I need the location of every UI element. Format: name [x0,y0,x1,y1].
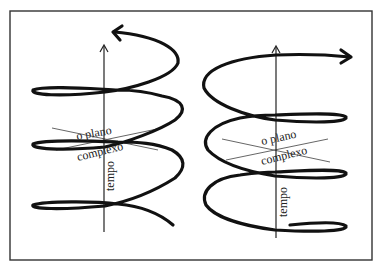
helix-diagram: o plano complexo tempo o plano complexo … [0,0,380,271]
right-helix-panel: o plano complexo tempo [204,46,351,238]
right-axis-label: tempo [276,187,290,217]
right-plane-label-line1: o plano [260,127,298,148]
left-helix-panel: o plano complexo tempo [33,26,183,232]
left-axis-label: tempo [103,161,117,191]
